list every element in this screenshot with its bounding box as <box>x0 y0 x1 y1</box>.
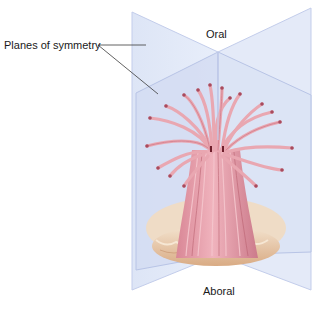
planes-of-symmetry-label: Planes of symmetry <box>4 40 101 51</box>
aboral-label: Aboral <box>203 286 235 297</box>
oral-label: Oral <box>206 29 227 40</box>
anemone-symmetry-diagram: Planes of symmetry Oral Aboral <box>0 0 314 309</box>
